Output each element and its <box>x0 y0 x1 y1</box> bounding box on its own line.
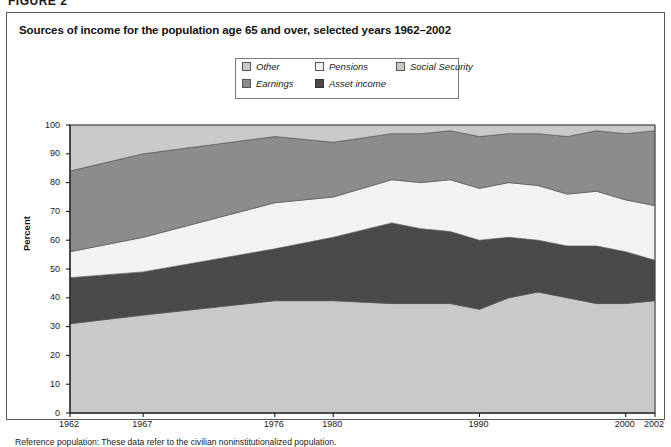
x-tick-2002: 2002 <box>644 420 664 429</box>
y-tick-40: 40 <box>36 293 60 302</box>
plot-area: Percent 0102030405060708090100 196219671… <box>7 13 666 421</box>
figure-number-label: FIGURE 2 <box>8 0 67 8</box>
y-tick-50: 50 <box>36 265 60 274</box>
x-tick-1980: 1980 <box>322 420 342 429</box>
y-tick-70: 70 <box>36 207 60 216</box>
y-tick-100: 100 <box>36 121 60 130</box>
y-tick-10: 10 <box>36 380 60 389</box>
y-tick-90: 90 <box>36 149 60 158</box>
x-tick-1976: 1976 <box>264 420 284 429</box>
x-tick-1990: 1990 <box>469 420 489 429</box>
x-tick-1962: 1962 <box>59 420 79 429</box>
y-tick-30: 30 <box>36 322 60 331</box>
y-tick-0: 0 <box>36 409 60 418</box>
figure-panel: Sources of income for the population age… <box>6 12 665 420</box>
x-tick-1967: 1967 <box>132 420 152 429</box>
reference-population-footnote: Reference population: These data refer t… <box>15 437 336 447</box>
y-tick-20: 20 <box>36 351 60 360</box>
x-tick-2000: 2000 <box>615 420 635 429</box>
y-tick-60: 60 <box>36 236 60 245</box>
stacked-area-chart <box>7 13 666 421</box>
y-tick-80: 80 <box>36 178 60 187</box>
